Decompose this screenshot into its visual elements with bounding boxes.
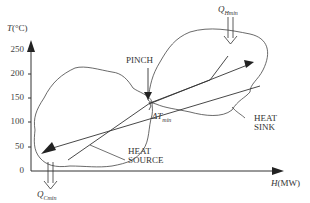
x-axis-label: H(MW) [271,179,300,188]
composite-curve-diagram [0,0,310,203]
y-axis-label: T(°C) [7,24,28,33]
delta-t-sub: min [162,117,171,123]
heat-sink-label: HEAT SINK [254,114,277,132]
pinch-label: PINCH [126,56,153,65]
heat-sink-region [148,29,268,116]
y-tick-0: 0 [0,166,24,175]
y-tick-100: 100 [0,117,24,126]
heat-source-label: HEAT SOURCE [128,147,164,165]
y-tick-150: 150 [0,93,24,102]
y-tick-250: 250 [0,45,24,54]
x-axis-unit: (MW) [278,178,301,188]
delta-t-min-label: ΔTmin [152,112,171,123]
y-axis [27,40,35,171]
heat-sink-line2: SINK [254,123,277,132]
delta-t-text: ΔT [152,111,162,121]
q-cmin-label: QCmin [37,190,57,201]
heat-source-line2: SOURCE [128,156,164,165]
x-axis [31,167,284,175]
q-hmin-sub: Hmin [225,10,238,16]
y-tick-200: 200 [0,69,24,78]
y-axis-unit: (°C) [12,23,28,33]
y-tick-50: 50 [0,142,24,151]
q-cmin-sub: Cmin [44,195,57,201]
q-hmin-label: QHmin [218,5,238,16]
